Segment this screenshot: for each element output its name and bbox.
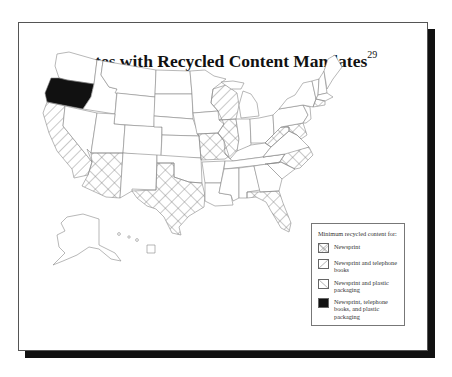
- state-kansas: [161, 135, 201, 158]
- legend-label: Newsprint and plastic packaging: [334, 279, 398, 294]
- state-new-york: [279, 81, 316, 109]
- legend-item-newsprint-phone: Newsprint and telephone books: [318, 259, 398, 274]
- solid-black-swatch-icon: [318, 298, 329, 308]
- back-diagonal-swatch-icon: [318, 279, 329, 289]
- legend-item-newsprint: Newsprint: [318, 243, 398, 253]
- legend-label: Newsprint: [334, 243, 398, 250]
- cropped-header-text: [300, 0, 440, 6]
- forward-diagonal-swatch-icon: [318, 259, 329, 269]
- state-hawaii-island: [128, 236, 130, 238]
- figure-frame: States with Recycled Content Mandates29: [18, 22, 428, 351]
- state-hawaii: [147, 245, 155, 253]
- legend-item-all-three: Newsprint, telephone books, and plastic …: [318, 298, 398, 320]
- state-florida: [247, 191, 291, 232]
- state-colorado: [123, 125, 162, 157]
- legend-label: Newsprint, telephone books, and plastic …: [334, 298, 398, 320]
- state-hawaii-island: [136, 239, 139, 242]
- state-south-dakota: [154, 94, 193, 119]
- state-maine: [324, 55, 342, 89]
- state-north-dakota: [155, 70, 192, 94]
- legend-label: Newsprint and telephone books: [334, 259, 398, 274]
- legend-item-newsprint-plastic: Newsprint and plastic packaging: [318, 279, 398, 294]
- state-michigan: [239, 91, 259, 118]
- cross-hatch-swatch-icon: [318, 243, 329, 253]
- map-legend: Minimum recycled content for: Newsprint …: [311, 223, 405, 326]
- state-hawaii-island: [118, 233, 121, 236]
- state-alaska: [53, 214, 121, 265]
- state-wyoming: [114, 93, 155, 127]
- legend-heading: Minimum recycled content for:: [318, 230, 397, 237]
